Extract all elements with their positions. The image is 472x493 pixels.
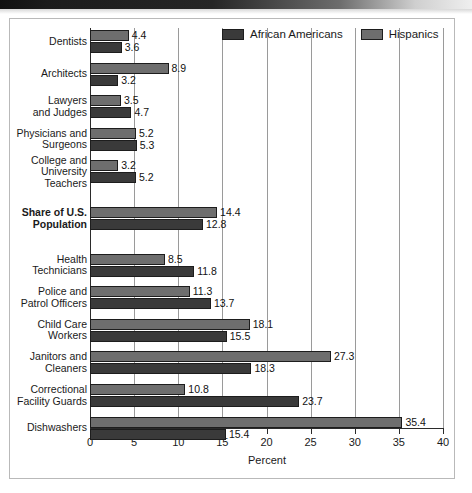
bar-value-label: 14.4 (220, 207, 240, 218)
bar-group: 3.54.7 (90, 95, 443, 118)
category-label: Share of U.S.Population (0, 207, 87, 230)
category-label-line: Architects (0, 68, 87, 80)
bar-group: 10.823.7 (90, 384, 443, 407)
x-axis-title: Percent (90, 454, 444, 466)
bar-value-label: 10.8 (188, 384, 208, 395)
gridline (443, 28, 444, 428)
bar-value-label: 11.3 (193, 286, 213, 297)
bar-hispanics (90, 160, 118, 171)
bar-value-label: 11.8 (197, 266, 217, 277)
bar-value-label: 13.7 (214, 298, 234, 309)
bar-african (90, 266, 194, 277)
bar-hispanics (90, 63, 169, 74)
bar-african (90, 396, 299, 407)
bar-value-label: 15.4 (229, 429, 249, 440)
bar-value-label: 18.1 (253, 319, 273, 330)
bar-african (90, 219, 203, 230)
category-label: Dishwashers (0, 422, 87, 434)
bar-value-label: 12.8 (206, 219, 226, 230)
bar-hispanics (90, 417, 402, 428)
bar-african (90, 107, 131, 118)
category-label: Janitors andCleaners (0, 351, 87, 374)
category-label: Lawyersand Judges (0, 95, 87, 118)
bar-value-label: 3.2 (121, 75, 136, 86)
category-label-line: Workers (0, 330, 87, 342)
bar-group: 18.115.5 (90, 319, 443, 342)
bar-group: 8.511.8 (90, 254, 443, 277)
bar-african (90, 75, 118, 86)
bar-group: 35.415.4 (90, 417, 443, 440)
bar-african (90, 429, 226, 440)
bar-group: 8.93.2 (90, 63, 443, 86)
bar-group: 4.43.6 (90, 30, 443, 53)
bar-group: 27.318.3 (90, 351, 443, 374)
bar-african (90, 172, 136, 183)
category-label-line: Correctional (0, 384, 87, 396)
bar-african (90, 140, 137, 151)
bar-african (90, 42, 122, 53)
bar-value-label: 3.6 (125, 42, 140, 53)
bar-hispanics (90, 30, 129, 41)
category-label-line: University (0, 166, 87, 178)
category-label: CorrectionalFacility Guards (0, 384, 87, 407)
bar-group: 11.313.7 (90, 286, 443, 309)
horizontal-bar-chart: African Americans Hispanics Percent 0510… (0, 0, 472, 493)
category-label-line: Facility Guards (0, 396, 87, 408)
bar-value-label: 4.4 (132, 30, 147, 41)
category-label-line: Population (0, 219, 87, 231)
bar-african (90, 298, 211, 309)
bar-african (90, 331, 227, 342)
bar-value-label: 15.5 (230, 331, 250, 342)
bar-hispanics (90, 286, 190, 297)
category-label: Police andPatrol Officers (0, 286, 87, 309)
bar-value-label: 18.3 (254, 363, 274, 374)
bar-value-label: 5.3 (140, 140, 155, 151)
category-label: Dentists (0, 36, 87, 48)
category-label: Architects (0, 68, 87, 80)
category-label-line: Patrol Officers (0, 298, 87, 310)
bar-value-label: 5.2 (139, 172, 154, 183)
bar-hispanics (90, 254, 165, 265)
bar-value-label: 3.5 (124, 95, 139, 106)
bar-group: 5.25.3 (90, 128, 443, 151)
category-label-line: Surgeons (0, 139, 87, 151)
bar-hispanics (90, 95, 121, 106)
category-label-line: Lawyers (0, 95, 87, 107)
category-label: Physicians andSurgeons (0, 128, 87, 151)
bar-value-label: 35.4 (405, 417, 425, 428)
category-label: College andUniversityTeachers (0, 155, 87, 190)
bar-african (90, 363, 251, 374)
category-label-line: and Judges (0, 107, 87, 119)
bar-hispanics (90, 207, 217, 218)
category-label-line: Technicians (0, 265, 87, 277)
category-label-line: Share of U.S. (0, 207, 87, 219)
bar-value-label: 3.2 (121, 160, 136, 171)
bar-group: 3.25.2 (90, 160, 443, 183)
bar-hispanics (90, 319, 250, 330)
category-label: Child CareWorkers (0, 319, 87, 342)
bar-hispanics (90, 351, 331, 362)
bar-value-label: 27.3 (334, 351, 354, 362)
bar-value-label: 8.9 (172, 63, 187, 74)
category-label-line: Teachers (0, 178, 87, 190)
bar-value-label: 5.2 (139, 128, 154, 139)
bar-hispanics (90, 128, 136, 139)
bar-value-label: 4.7 (134, 107, 149, 118)
category-label-line: Dishwashers (0, 422, 87, 434)
bar-group: 14.412.8 (90, 207, 443, 230)
bar-value-label: 8.5 (168, 254, 183, 265)
category-label: HealthTechnicians (0, 254, 87, 277)
bar-value-label: 23.7 (302, 396, 322, 407)
category-label-line: Police and (0, 286, 87, 298)
category-label-line: Dentists (0, 36, 87, 48)
x-axis-tick (443, 428, 444, 434)
bar-hispanics (90, 384, 185, 395)
category-label-line: Cleaners (0, 363, 87, 375)
